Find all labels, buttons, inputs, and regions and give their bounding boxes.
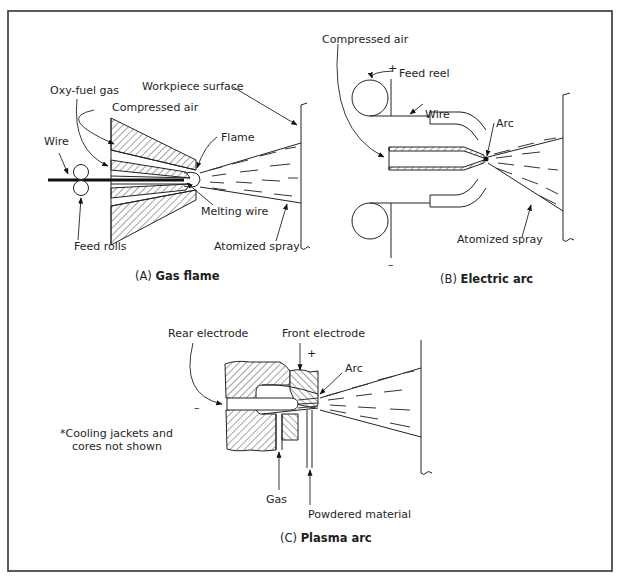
- label-arc-b: Arc: [496, 117, 514, 130]
- minus-sign-b: –: [388, 258, 394, 271]
- rear-electrode-rod: [227, 398, 298, 410]
- caption-c: (C) Plasma arc: [280, 531, 372, 545]
- label-feed-reel: Feed reel: [399, 67, 450, 80]
- label-compressed-air-b: Compressed air: [322, 33, 409, 46]
- atomized-spray-a: [210, 147, 298, 196]
- gas-tube: [276, 414, 282, 450]
- feed-reel-bottom: [352, 203, 388, 239]
- label-workpiece-surface: Workpiece surface: [142, 80, 244, 93]
- caption-a-title: Gas flame: [156, 269, 220, 283]
- label-flame: Flame: [221, 131, 255, 144]
- label-compressed-air-a: Compressed air: [112, 101, 199, 114]
- caption-b-title: Electric arc: [461, 272, 534, 286]
- label-gas: Gas: [266, 493, 287, 506]
- powder-tube: [307, 410, 312, 468]
- feed-roll-top: [74, 165, 89, 180]
- label-atomized-spray-b: Atomized spray: [457, 233, 543, 246]
- feed-roll-bottom: [74, 181, 89, 196]
- panel-a-gas-flame: Oxy-fuel gas Compressed air Workpiece su…: [44, 80, 310, 283]
- label-cooling-note-2: cores not shown: [72, 440, 162, 453]
- caption-c-title: Plasma arc: [301, 531, 372, 545]
- label-cooling-note-1: *Cooling jackets and: [60, 427, 173, 440]
- arc-point-b: [484, 157, 489, 162]
- feed-reel-top: [352, 80, 388, 116]
- label-front-electrode: Front electrode: [282, 327, 365, 340]
- workpiece-b: [563, 93, 574, 242]
- atomized-spray-b: [494, 138, 558, 204]
- workpiece-a: [301, 103, 310, 250]
- air-nozzle: [389, 160, 484, 170]
- panel-b-electric-arc: + –: [322, 33, 574, 286]
- label-rear-electrode: Rear electrode: [168, 327, 249, 340]
- atomized-spray-c: [326, 371, 414, 427]
- plus-sign-b: +: [388, 62, 397, 75]
- label-oxy-fuel-gas: Oxy-fuel gas: [50, 84, 119, 97]
- label-feed-rolls: Feed rolls: [74, 240, 127, 253]
- caption-a: (A) Gas flame: [135, 269, 220, 283]
- workpiece-c: [421, 340, 432, 475]
- label-arc-c: Arc: [345, 362, 363, 375]
- label-powdered-material: Powdered material: [308, 508, 411, 521]
- caption-b: (B) Electric arc: [440, 272, 533, 286]
- label-wire-b: Wire: [425, 108, 450, 121]
- label-atomized-spray-a: Atomized spray: [214, 240, 300, 253]
- caption-c-prefix: (C): [280, 531, 297, 545]
- lower-guide-tube: [430, 179, 486, 207]
- panel-c-plasma-arc: – + Rear electrode Front electrode Arc G…: [60, 327, 432, 545]
- label-wire-a: Wire: [44, 135, 69, 148]
- caption-b-prefix: (B): [440, 272, 457, 286]
- plus-sign-c: +: [307, 347, 316, 360]
- label-melting-wire: Melting wire: [201, 205, 268, 218]
- thermal-spray-diagram: Oxy-fuel gas Compressed air Workpiece su…: [0, 0, 628, 579]
- minus-sign-c: –: [194, 401, 200, 414]
- caption-a-prefix: (A): [135, 269, 152, 283]
